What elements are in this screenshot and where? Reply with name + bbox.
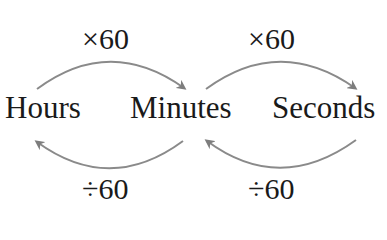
arrow-minutes-to-seconds <box>206 62 355 89</box>
arrow-minutes-to-hours <box>37 141 183 168</box>
arrow-seconds-to-minutes <box>207 140 356 168</box>
unit-minutes: Minutes <box>130 92 232 123</box>
divide-label-minutes-hours: ÷60 <box>82 174 128 204</box>
multiply-label-hours-minutes: ×60 <box>82 24 129 54</box>
divide-label-seconds-minutes: ÷60 <box>248 174 294 204</box>
arrow-hours-to-minutes <box>37 62 184 89</box>
unit-seconds: Seconds <box>272 92 375 123</box>
multiply-label-minutes-seconds: ×60 <box>248 24 295 54</box>
unit-hours: Hours <box>5 92 81 123</box>
